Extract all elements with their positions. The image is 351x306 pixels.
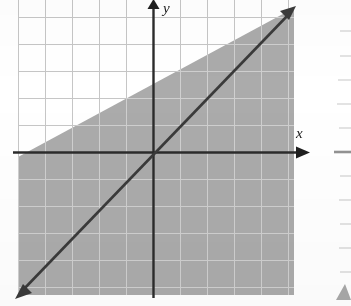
y-axis-label: y bbox=[161, 0, 170, 16]
x-axis-label: x bbox=[295, 125, 303, 141]
coordinate-plane-svg: x y bbox=[0, 0, 351, 306]
inequality-graph-figure: x y bbox=[0, 0, 351, 306]
